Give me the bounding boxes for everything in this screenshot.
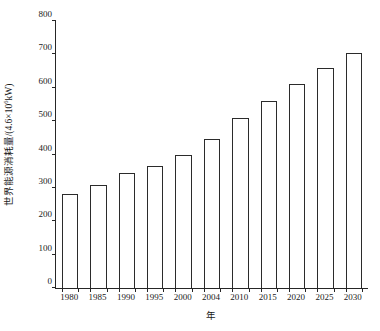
bar-1985 bbox=[90, 185, 106, 288]
y-tick-label-100: 100 bbox=[39, 243, 53, 252]
plot-area bbox=[55, 21, 368, 289]
bar-1980 bbox=[62, 194, 78, 288]
x-tick-label-2030: 2030 bbox=[344, 292, 362, 303]
y-axis-title-prefix: 世界能源消耗量/(4.6×10 bbox=[4, 104, 14, 207]
x-axis-title: 年 bbox=[55, 308, 367, 322]
x-tick-label-2010: 2010 bbox=[230, 292, 248, 303]
x-tick-label-1990: 1990 bbox=[117, 292, 135, 303]
y-tick-label-500: 500 bbox=[39, 110, 53, 119]
y-tick-label-600: 600 bbox=[39, 76, 53, 85]
x-tick-label-2015: 2015 bbox=[259, 292, 277, 303]
y-axis-tick-labels: 0100200300400500600700800 bbox=[18, 14, 52, 288]
x-tick-label-1995: 1995 bbox=[145, 292, 163, 303]
bar-1995 bbox=[147, 166, 163, 288]
y-axis-title-suffix: kW) bbox=[4, 84, 14, 101]
bar-2025 bbox=[317, 68, 333, 288]
bar-2020 bbox=[289, 84, 305, 288]
x-tick-label-2025: 2025 bbox=[315, 292, 333, 303]
y-tick-label-700: 700 bbox=[39, 43, 53, 52]
bar-series bbox=[56, 21, 368, 288]
x-tick-label-2004: 2004 bbox=[202, 292, 220, 303]
y-tick-label-400: 400 bbox=[39, 143, 53, 152]
x-axis-tick-labels: 1980198519901995200020042010201520202025… bbox=[55, 292, 367, 306]
x-tick-label-2000: 2000 bbox=[174, 292, 192, 303]
y-tick-label-0: 0 bbox=[48, 277, 53, 286]
x-tick-label-1985: 1985 bbox=[89, 292, 107, 303]
y-tick-label-800: 800 bbox=[39, 10, 53, 19]
x-tick-label-1980: 1980 bbox=[60, 292, 78, 303]
x-tick-label-2020: 2020 bbox=[287, 292, 305, 303]
bar-2015 bbox=[261, 101, 277, 288]
y-axis-title-exponent: 6 bbox=[2, 101, 9, 104]
bar-2000 bbox=[175, 155, 191, 289]
y-tick-label-200: 200 bbox=[39, 210, 53, 219]
bar-2030 bbox=[346, 53, 362, 288]
y-axis-title: 世界能源消耗量/(4.6×106kW) bbox=[0, 0, 16, 290]
bar-2010 bbox=[232, 118, 248, 288]
bar-2004 bbox=[204, 139, 220, 288]
y-axis-title-text: 世界能源消耗量/(4.6×106kW) bbox=[1, 84, 15, 207]
bar-1990 bbox=[119, 173, 135, 288]
energy-consumption-bar-chart: 世界能源消耗量/(4.6×106kW) 01002003004005006007… bbox=[0, 0, 380, 331]
y-tick-label-300: 300 bbox=[39, 176, 53, 185]
